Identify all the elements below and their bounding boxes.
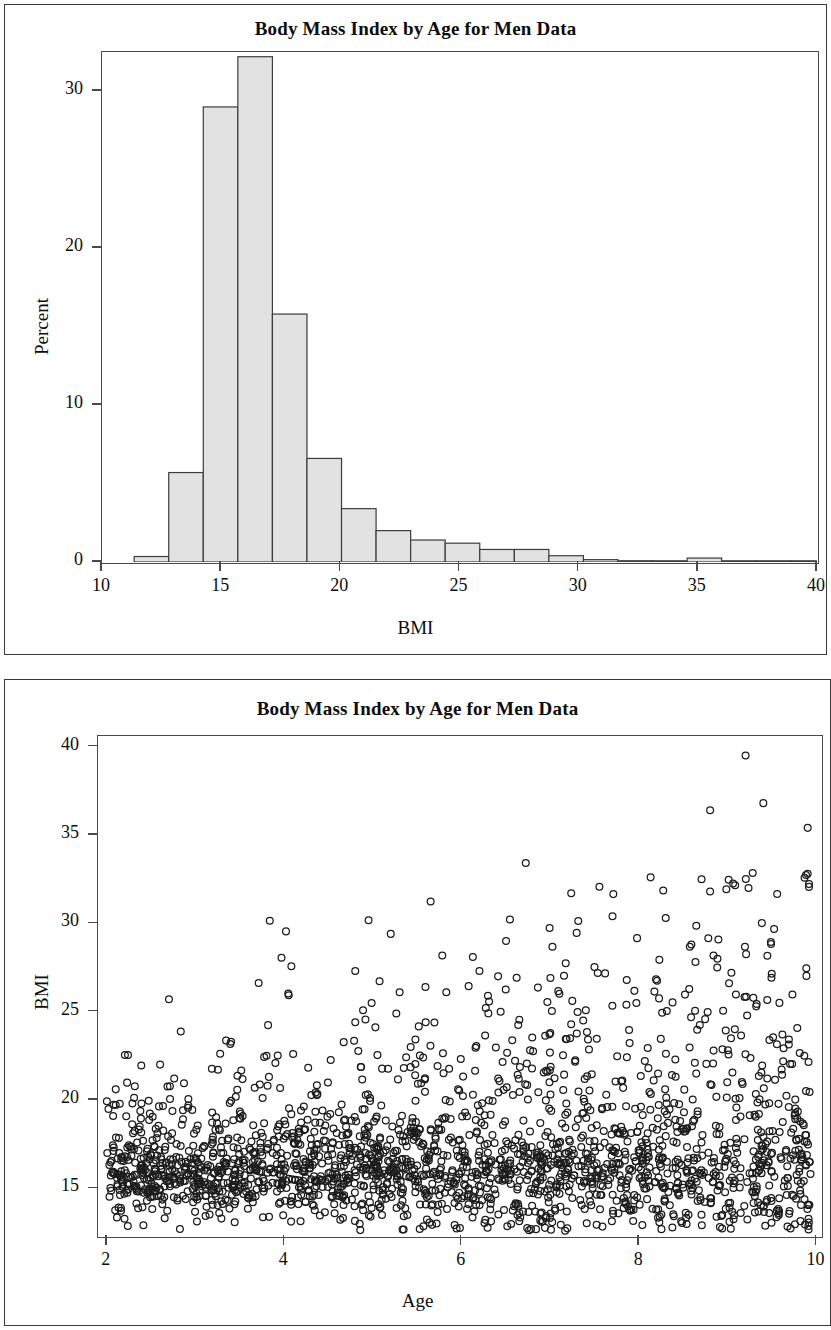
scatter-point — [594, 970, 601, 977]
scatter-y-tickmark — [88, 1187, 97, 1189]
scatter-point — [250, 1122, 257, 1129]
scatter-point — [121, 1215, 128, 1222]
scatter-point — [399, 1197, 406, 1204]
scatter-point — [129, 1121, 136, 1128]
scatter-point — [715, 936, 722, 943]
scatter-point — [742, 876, 749, 883]
scatter-point — [124, 1223, 131, 1230]
scatter-point — [699, 1132, 706, 1139]
scatter-point — [355, 1048, 362, 1055]
histogram-bar — [272, 314, 307, 562]
scatter-point — [161, 1215, 168, 1222]
scatter-point — [545, 1199, 552, 1206]
scatter-point — [647, 874, 654, 881]
scatter-point — [568, 890, 575, 897]
scatter-point — [469, 954, 476, 961]
scatter-point — [457, 1056, 464, 1063]
scatter-point — [124, 1079, 131, 1086]
scatter-point — [743, 951, 750, 958]
scatter-point — [603, 1091, 610, 1098]
histogram-y-ticklabel: 10 — [33, 392, 83, 413]
scatter-point — [446, 1098, 453, 1105]
scatter-point — [546, 925, 553, 932]
scatter-point — [578, 1144, 585, 1151]
scatter-x-tickmark — [283, 1235, 285, 1245]
scatter-point — [477, 1137, 484, 1144]
scatter-point — [181, 1080, 188, 1087]
scatter-y-tickmark — [88, 1010, 97, 1012]
histogram-bar — [169, 473, 204, 562]
scatter-point — [507, 916, 514, 923]
histogram-x-tickmark — [100, 561, 102, 571]
scatter-point — [547, 1091, 554, 1098]
scatter-point — [358, 1064, 365, 1071]
scatter-point — [731, 1026, 738, 1033]
scatter-point — [138, 1115, 145, 1122]
scatter-point — [177, 1028, 184, 1035]
histogram-bar — [687, 558, 722, 562]
scatter-y-tickmark — [88, 1098, 97, 1100]
scatter-point — [804, 824, 811, 831]
scatter-point — [654, 1115, 661, 1122]
histogram-y-ticklabel: 20 — [33, 235, 83, 256]
scatter-point — [351, 1037, 358, 1044]
scatter-point — [482, 1032, 489, 1039]
scatter-point — [190, 1142, 197, 1149]
scatter-point — [387, 930, 394, 937]
scatter-point — [613, 1197, 620, 1204]
scatter-point — [378, 1102, 385, 1109]
scatter-y-ticklabel: 40 — [25, 734, 79, 755]
scatter-point — [297, 1218, 304, 1225]
scatter-point — [514, 1071, 521, 1078]
histogram-bar — [376, 531, 411, 562]
scatter-point — [135, 1147, 142, 1154]
scatter-point — [723, 1094, 730, 1101]
scatter-point — [614, 1053, 621, 1060]
scatter-point — [562, 960, 569, 967]
scatter-point — [164, 1207, 171, 1214]
scatter-point — [479, 1100, 486, 1107]
scatter-point — [649, 1124, 656, 1131]
scatter-point — [415, 1023, 422, 1030]
scatter-point — [626, 1040, 633, 1047]
scatter-point — [472, 1117, 479, 1124]
scatter-point — [382, 1117, 389, 1124]
scatter-point — [585, 1036, 592, 1043]
scatter-point — [759, 1062, 766, 1069]
scatter-point — [278, 954, 285, 961]
scatter-point — [524, 1177, 531, 1184]
scatter-point — [664, 1170, 671, 1177]
histogram-bar — [307, 458, 342, 562]
histogram-bar — [583, 560, 618, 562]
scatter-point — [609, 1191, 616, 1198]
scatter-point — [691, 1059, 698, 1066]
scatter-point — [422, 1088, 429, 1095]
scatter-point — [722, 1027, 729, 1034]
scatter-point — [794, 1025, 801, 1032]
scatter-point — [750, 1200, 757, 1207]
scatter-point — [707, 888, 714, 895]
scatter-point — [535, 984, 542, 991]
scatter-point — [433, 1220, 440, 1227]
scatter-point — [206, 1211, 213, 1218]
scatter-point — [586, 1087, 593, 1094]
scatter-point — [335, 1109, 342, 1116]
scatter-point — [340, 1039, 347, 1046]
scatter-point — [145, 1097, 152, 1104]
scatter-point — [367, 1213, 374, 1220]
scatter-point — [338, 1101, 345, 1108]
scatter-point — [510, 1092, 517, 1099]
scatter-point — [760, 1085, 767, 1092]
scatter-point — [185, 1096, 192, 1103]
scatter-y-ticklabel: 25 — [25, 999, 79, 1020]
scatter-point — [360, 1007, 367, 1014]
scatter-point — [352, 1189, 359, 1196]
scatter-x-ticklabel: 10 — [786, 1249, 831, 1270]
scatter-point — [569, 1195, 576, 1202]
scatter-y-tickmark — [88, 922, 97, 924]
scatter-point — [631, 987, 638, 994]
scatter-point — [393, 1010, 400, 1017]
histogram-x-tickmark — [815, 561, 817, 571]
histogram-panel: Body Mass Index by Age for Men Data Perc… — [4, 4, 827, 655]
scatter-point — [171, 1075, 178, 1082]
